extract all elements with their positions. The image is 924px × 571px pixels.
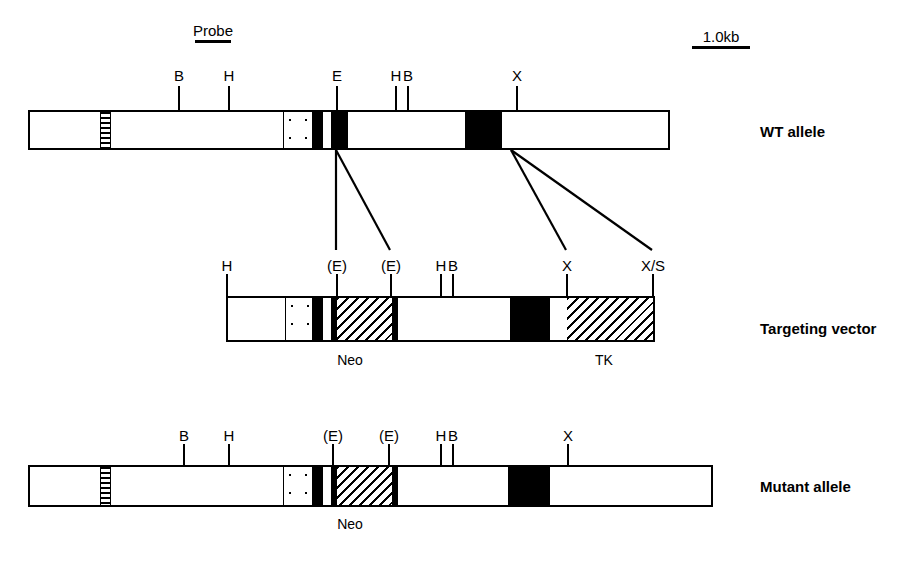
targeting-vector-site-label: (E) xyxy=(327,258,347,273)
mutant-allele-row-name: Mutant allele xyxy=(760,478,851,495)
mutant-allele-site-tick xyxy=(388,444,390,465)
targeting-vector-site-label: X/S xyxy=(641,258,665,273)
mutant-allele-site-label: B xyxy=(179,428,189,443)
wt-allele-site-label: B xyxy=(174,68,184,83)
mutant-allele-segment-dots xyxy=(283,467,313,505)
wt-allele-segment-black xyxy=(313,112,323,148)
targeting-vector-segment-diag xyxy=(567,298,653,340)
targeting-vector-cassette-label: TK xyxy=(595,352,613,368)
targeting-vector-segment-black xyxy=(510,298,550,340)
mutant-allele-site-label: X xyxy=(563,428,573,443)
mutant-allele-segment-black xyxy=(392,467,398,505)
wt-allele-segment-hstripe xyxy=(100,112,111,148)
gene-targeting-figure: 1.0kb Probe BHEHBXWT alleleH(E)(E)HBXX/S… xyxy=(0,0,924,571)
wt-allele-segment-black xyxy=(465,112,502,148)
wt-allele-site-label: E xyxy=(332,68,342,83)
mutant-allele-site-label: H xyxy=(224,428,235,443)
connector-line xyxy=(511,150,566,250)
wt-allele-site-label: X xyxy=(512,68,522,83)
targeting-vector-cassette-label: Neo xyxy=(337,352,363,368)
targeting-vector-segment-black xyxy=(313,298,323,340)
targeting-vector-segment-dots xyxy=(285,298,313,340)
targeting-vector-segment-white xyxy=(550,298,567,340)
mutant-allele-segment-black xyxy=(508,467,550,505)
targeting-vector-site-tick xyxy=(652,274,654,296)
targeting-vector-site-tick xyxy=(440,274,442,296)
mutant-allele-site-tick xyxy=(440,444,442,465)
wt-allele-site-tick xyxy=(336,86,338,110)
mutant-allele-site-tick xyxy=(332,444,334,465)
wt-allele-segment-dots xyxy=(283,112,313,148)
targeting-vector-site-label: H xyxy=(222,258,233,273)
targeting-vector-site-tick xyxy=(452,274,454,296)
connector-line xyxy=(336,150,390,250)
wt-allele-site-tick xyxy=(395,86,397,110)
targeting-vector-segment-black xyxy=(392,298,398,340)
scale-bar-label: 1.0kb xyxy=(703,28,740,45)
mutant-allele-site-label: (E) xyxy=(323,428,343,443)
wt-allele-site-tick xyxy=(178,86,180,110)
wt-allele-segment-black xyxy=(331,112,348,148)
mutant-allele-site-tick xyxy=(228,444,230,465)
mutant-allele-site-label: H xyxy=(436,428,447,443)
wt-allele-site-label: H xyxy=(224,68,235,83)
mutant-allele-cassette-label: Neo xyxy=(337,516,363,532)
mutant-allele-site-tick xyxy=(183,444,185,465)
connector-line xyxy=(511,150,652,250)
targeting-vector-row-name: Targeting vector xyxy=(760,320,876,337)
probe-label: Probe xyxy=(193,22,233,39)
wt-allele-site-label: B xyxy=(403,68,413,83)
mutant-allele-site-tick xyxy=(567,444,569,465)
probe-rule xyxy=(195,40,231,43)
mutant-allele-segment-white xyxy=(323,467,331,505)
mutant-allele-site-label: (E) xyxy=(379,428,399,443)
wt-allele-segment-white xyxy=(323,112,331,148)
targeting-vector-segment-diag xyxy=(337,298,392,340)
wt-allele-site-tick xyxy=(407,86,409,110)
mutant-allele-segment-diag xyxy=(337,467,392,505)
mutant-allele-site-label: B xyxy=(448,428,458,443)
wt-allele-site-tick xyxy=(516,86,518,110)
wt-allele-site-label: H xyxy=(391,68,402,83)
targeting-vector-site-label: X xyxy=(562,258,572,273)
mutant-allele-site-tick xyxy=(452,444,454,465)
scale-bar-rule xyxy=(692,46,750,49)
mutant-allele-segment-hstripe xyxy=(100,467,111,505)
targeting-vector-site-tick xyxy=(566,274,568,296)
targeting-vector-site-tick xyxy=(336,274,338,296)
targeting-vector-site-label: B xyxy=(448,258,458,273)
wt-allele-site-tick xyxy=(228,86,230,110)
mutant-allele-segment-black xyxy=(313,467,323,505)
targeting-vector-site-label: (E) xyxy=(381,258,401,273)
targeting-vector-site-tick xyxy=(390,274,392,296)
targeting-vector-site-tick xyxy=(226,274,228,296)
targeting-vector-site-label: H xyxy=(436,258,447,273)
wt-allele-bar xyxy=(28,110,670,150)
wt-allele-row-name: WT allele xyxy=(760,123,825,140)
targeting-vector-segment-white xyxy=(323,298,331,340)
